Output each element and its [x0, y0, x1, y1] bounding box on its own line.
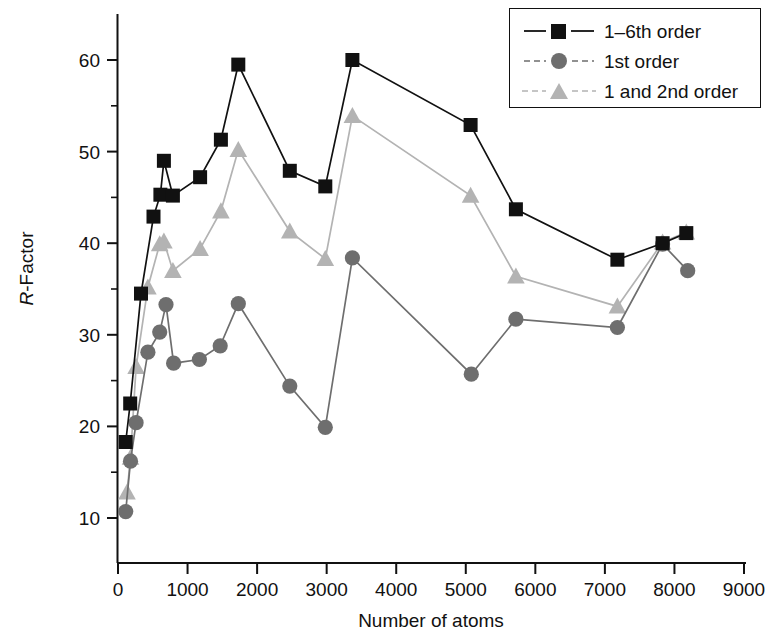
series-1-and-2nd-order: [118, 107, 695, 500]
data-point-circle: [192, 352, 207, 367]
data-point-triangle: [212, 202, 230, 218]
data-point-square: [656, 236, 670, 250]
legend-item-1-6th-order: 1–6th order: [520, 16, 754, 46]
x-tick-label: 5000: [445, 579, 487, 600]
data-point-triangle: [191, 240, 209, 256]
data-point-circle: [231, 296, 246, 311]
data-point-circle: [508, 312, 523, 327]
data-point-square: [214, 133, 228, 147]
x-tick-label: 0: [113, 579, 124, 600]
data-point-circle: [282, 379, 297, 394]
data-point-square: [283, 164, 297, 178]
svg-text:R-Factor: R-Factor: [16, 231, 37, 306]
x-tick-label: 1000: [166, 579, 208, 600]
data-point-triangle: [462, 187, 480, 203]
data-point-circle: [118, 504, 133, 519]
series-line: [127, 116, 686, 493]
data-point-circle: [680, 263, 695, 278]
data-point-square: [509, 202, 523, 216]
data-point-triangle: [317, 250, 335, 266]
data-point-circle: [345, 250, 360, 265]
data-point-triangle: [164, 262, 182, 278]
data-point-square: [193, 170, 207, 184]
series-line: [126, 244, 688, 512]
data-point-circle: [152, 325, 167, 340]
data-point-circle: [610, 320, 625, 335]
x-tick-label: 8000: [653, 579, 695, 600]
data-point-circle: [213, 338, 228, 353]
chart-root: 1020304050600100020003000400050006000700…: [0, 0, 771, 636]
data-point-square: [123, 397, 137, 411]
axis-labels-layer: 1020304050600100020003000400050006000700…: [16, 50, 765, 631]
data-point-circle: [166, 356, 181, 371]
legend-marker-triangle: [520, 80, 598, 102]
x-tick-label: 7000: [584, 579, 626, 600]
data-point-square: [157, 154, 171, 168]
y-tick-label: 50: [79, 142, 100, 163]
legend-marker-circle: [520, 50, 598, 72]
series-line: [126, 60, 687, 442]
series-layer: [118, 53, 695, 519]
data-point-triangle: [609, 298, 627, 314]
data-point-circle: [140, 345, 155, 360]
x-tick-label: 3000: [306, 579, 348, 600]
data-point-triangle: [507, 267, 525, 283]
data-point-square: [345, 53, 359, 67]
series-1st-order: [118, 237, 695, 520]
x-tick-label: 6000: [514, 579, 556, 600]
data-point-triangle: [230, 141, 248, 157]
data-point-triangle: [344, 107, 362, 123]
x-tick-label: 4000: [375, 579, 417, 600]
data-point-circle: [464, 367, 479, 382]
legend-label-1-and-2nd-order: 1 and 2nd order: [598, 82, 738, 101]
data-point-square: [153, 188, 167, 202]
data-point-square: [610, 253, 624, 267]
data-point-square: [166, 189, 180, 203]
y-tick-label: 20: [79, 416, 100, 437]
data-point-square: [679, 226, 693, 240]
legend-marker-square: [520, 20, 598, 42]
data-point-square: [464, 118, 478, 132]
data-point-square: [231, 58, 245, 72]
data-point-circle: [318, 420, 333, 435]
data-point-circle: [129, 415, 144, 430]
data-point-triangle: [127, 358, 145, 374]
data-point-square: [147, 210, 161, 224]
y-axis-title: R-Factor: [16, 231, 37, 306]
y-tick-label: 60: [79, 50, 100, 71]
legend-label-1st-order: 1st order: [598, 52, 679, 71]
chart-legend: 1–6th order 1st order 1 and 2nd order: [509, 8, 761, 108]
legend-item-1st-order: 1st order: [520, 46, 754, 76]
x-axis-title: Number of atoms: [358, 610, 504, 631]
data-point-circle: [158, 297, 173, 312]
data-point-circle: [123, 454, 138, 469]
legend-item-1-and-2nd-order: 1 and 2nd order: [520, 76, 754, 106]
x-tick-label: 2000: [236, 579, 278, 600]
y-tick-label: 30: [79, 325, 100, 346]
data-point-square: [318, 179, 332, 193]
y-tick-label: 10: [79, 508, 100, 529]
data-point-square: [119, 435, 133, 449]
y-tick-label: 40: [79, 233, 100, 254]
legend-label-1-6th-order: 1–6th order: [598, 22, 701, 41]
x-tick-label: 9000: [723, 579, 765, 600]
data-point-triangle: [281, 223, 299, 239]
data-point-square: [134, 287, 148, 301]
